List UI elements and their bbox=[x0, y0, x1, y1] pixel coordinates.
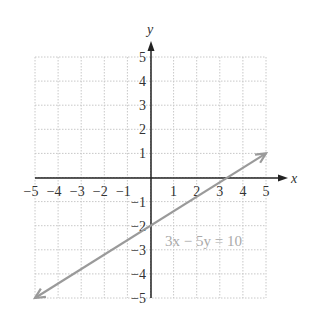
x-tick-label: 5 bbox=[263, 184, 270, 199]
y-axis-label: y bbox=[145, 22, 154, 37]
x-tick-label: −1 bbox=[116, 184, 131, 199]
x-arrow-icon bbox=[278, 175, 288, 182]
x-tick-label: 3 bbox=[216, 184, 223, 199]
x-tick-label: 4 bbox=[239, 184, 246, 199]
y-tick-label: −5 bbox=[131, 291, 146, 306]
x-tick-label: −5 bbox=[24, 184, 39, 199]
coordinate-plane: x y −5−4−3−2−112345 54321−1−2−3−4−5 3x −… bbox=[0, 0, 313, 317]
x-tick-label: −2 bbox=[93, 184, 108, 199]
x-tick-label: −3 bbox=[70, 184, 85, 199]
y-tick-label: 3 bbox=[139, 98, 146, 113]
axes bbox=[35, 41, 288, 298]
y-tick-label: 2 bbox=[139, 122, 146, 137]
y-tick-label: 4 bbox=[139, 74, 146, 89]
y-tick-label: −3 bbox=[131, 243, 146, 258]
x-axis-label: x bbox=[290, 171, 298, 186]
y-tick-label: −1 bbox=[131, 195, 146, 210]
x-tick-label: −4 bbox=[47, 184, 62, 199]
y-tick-label: −4 bbox=[131, 267, 146, 282]
x-tick-label: 1 bbox=[170, 184, 177, 199]
equation-label: 3x − 5y = 10 bbox=[165, 233, 242, 249]
x-tick-labels: −5−4−3−2−112345 bbox=[24, 184, 270, 199]
y-tick-label: −2 bbox=[131, 219, 146, 234]
y-tick-label: 5 bbox=[139, 50, 146, 65]
y-tick-label: 1 bbox=[139, 146, 146, 161]
y-arrow-icon bbox=[148, 41, 155, 51]
